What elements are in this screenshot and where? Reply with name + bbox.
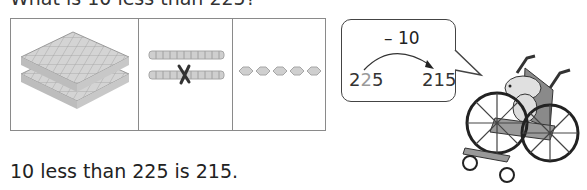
tens-panel [139,19,233,130]
answer-text: 10 less than 225 is 215. [10,160,238,182]
speech-bubble: – 10 225 215 [341,19,456,102]
hedgehog-wheelchair-illustration [455,48,585,188]
hundreds-panel [11,19,139,130]
hundreds-flat-icon [11,19,139,132]
question-text: What is 10 less than 225? [10,0,256,9]
ones-panel [233,19,325,130]
base-ten-blocks-panel [10,18,326,131]
end-number: 215 [422,69,456,90]
tens-rod-icon [139,19,233,132]
jump-arrow-icon [342,20,457,103]
ones-cube-icon [233,19,327,132]
start-number: 225 [349,69,383,90]
